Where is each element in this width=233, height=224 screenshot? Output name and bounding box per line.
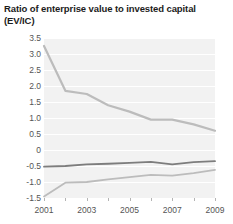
x-axis: 20012003200520072009	[44, 198, 215, 222]
y-axis-tick-label: 2.0	[1, 81, 41, 91]
series-layer	[44, 38, 215, 198]
y-axis-tick-label: -1.5	[1, 193, 41, 203]
series-line	[44, 161, 215, 166]
y-axis-tick-label: 3.5	[1, 33, 41, 43]
x-axis-tick-label: 2001	[35, 205, 54, 215]
x-axis-tick-label: 2003	[77, 205, 96, 215]
x-axis-tick-mark	[87, 198, 88, 201]
x-axis-tick-label: 2005	[120, 205, 139, 215]
x-axis-tick-mark	[215, 198, 216, 201]
y-axis-tick-label: 0.5	[1, 129, 41, 139]
x-axis-tick-mark	[151, 198, 152, 201]
chart-plot-wrapper: 3.53.02.52.01.51.00.50-0.5-1.0-1.5 20012…	[0, 0, 233, 224]
x-axis-tick-label: 2007	[163, 205, 182, 215]
x-axis-tick-mark	[108, 198, 109, 201]
y-axis-tick-label: -0.5	[1, 161, 41, 171]
x-axis-tick-label: 2009	[206, 205, 225, 215]
x-axis-tick-mark	[130, 198, 131, 201]
x-axis-tick-mark	[65, 198, 66, 201]
chart-page: Ratio of enterprise value to invested ca…	[0, 0, 233, 224]
y-axis-tick-label: 0	[1, 145, 41, 155]
series-line	[44, 46, 215, 131]
x-axis-tick-mark	[194, 198, 195, 201]
x-axis-tick-mark	[172, 198, 173, 201]
y-axis-tick-label: 1.0	[1, 113, 41, 123]
y-axis: 3.53.02.52.01.51.00.50-0.5-1.0-1.5	[0, 38, 41, 198]
y-axis-tick-label: 1.5	[1, 97, 41, 107]
series-line	[44, 170, 215, 197]
x-axis-tick-mark	[44, 198, 45, 201]
y-axis-tick-label: 2.5	[1, 65, 41, 75]
y-axis-tick-label: -1.0	[1, 177, 41, 187]
y-axis-tick-label: 3.0	[1, 49, 41, 59]
